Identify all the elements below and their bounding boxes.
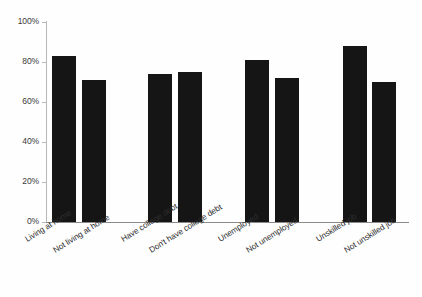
bar — [178, 72, 202, 222]
y-tick-label: 100% — [18, 17, 39, 26]
y-tick-label: 20% — [22, 177, 39, 186]
y-tick-mark — [42, 222, 46, 223]
y-tick-mark — [42, 142, 46, 143]
y-tick-mark — [42, 22, 46, 23]
y-tick-mark — [42, 182, 46, 183]
y-tick-label: 60% — [22, 97, 39, 106]
y-tick-label: 80% — [22, 57, 39, 66]
bar — [52, 56, 76, 222]
y-tick-mark — [42, 62, 46, 63]
bar — [82, 80, 106, 222]
bar-chart: 100%80%60%40%20%0% Living at homeNot liv… — [0, 0, 422, 297]
plot-area — [47, 22, 409, 222]
bar — [275, 78, 299, 222]
y-tick-label: 0% — [27, 217, 39, 226]
y-tick-mark — [42, 102, 46, 103]
bar — [372, 82, 396, 222]
bar — [343, 46, 367, 222]
bar — [148, 74, 172, 222]
x-axis-line — [46, 222, 409, 223]
bar — [245, 60, 269, 222]
y-tick-label: 40% — [22, 137, 39, 146]
